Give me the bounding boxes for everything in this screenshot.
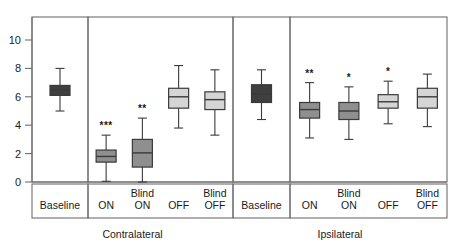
- box-plot-item: *OFF: [378, 66, 399, 211]
- chart-panel: ***ON**BlindONOFFBlindOFF: [88, 17, 233, 218]
- box-plot-item: OFF: [168, 66, 189, 211]
- box-plot-item: **ON: [300, 68, 320, 211]
- category-label: Blind: [416, 187, 440, 199]
- y-axis-tick-label: 8: [15, 62, 21, 74]
- category-label: OFF: [168, 199, 189, 211]
- chart-panel: Baseline: [233, 17, 290, 218]
- box-iqr: [417, 88, 437, 108]
- box-plot-item: Baseline: [40, 68, 80, 211]
- box-plot-item: *BlindON: [337, 72, 361, 211]
- chart-panel: Baseline: [32, 17, 88, 218]
- box-plot-item: Baseline: [241, 70, 281, 211]
- box-iqr: [50, 85, 70, 95]
- significance-marker: **: [305, 68, 314, 79]
- y-axis-tick-label: 4: [15, 119, 21, 131]
- significance-marker: ***: [100, 120, 113, 131]
- box-plot-item: **BlindON: [131, 103, 155, 211]
- category-label: ON: [302, 199, 318, 211]
- y-axis-tick-label: 10: [9, 34, 21, 46]
- y-axis-tick-label: 0: [15, 176, 21, 188]
- group-label: Ipsilateral: [318, 228, 363, 240]
- y-axis-tick-label: 6: [15, 91, 21, 103]
- box-plot-item: ***ON: [96, 120, 116, 211]
- category-label: ON: [341, 199, 357, 211]
- significance-marker: **: [138, 103, 147, 114]
- box-plot-item: BlindOFF: [416, 74, 440, 211]
- category-label: Blind: [203, 187, 227, 199]
- category-label: Baseline: [40, 199, 80, 211]
- box-plot-item: BlindOFF: [203, 70, 227, 211]
- category-label: ON: [98, 199, 114, 211]
- category-label: Blind: [131, 187, 155, 199]
- significance-marker: *: [386, 66, 390, 77]
- category-label: OFF: [378, 199, 399, 211]
- significance-marker: *: [347, 72, 351, 83]
- chart-canvas: 0246810Baseline***ON**BlindONOFFBlindOFF…: [0, 0, 456, 250]
- box-iqr: [169, 88, 189, 108]
- category-label: ON: [135, 199, 151, 211]
- category-label: Blind: [337, 187, 361, 199]
- box-iqr: [205, 92, 225, 110]
- y-axis: 0246810: [9, 17, 32, 188]
- category-label: Baseline: [241, 199, 281, 211]
- y-axis-tick-label: 2: [15, 148, 21, 160]
- category-label: OFF: [417, 199, 438, 211]
- box-plot-figure: 0246810Baseline***ON**BlindONOFFBlindOFF…: [0, 0, 456, 250]
- chart-panel: **ON*BlindON*OFFBlindOFF: [290, 17, 447, 218]
- category-label: OFF: [204, 199, 225, 211]
- box-iqr: [300, 102, 320, 118]
- group-label: Contralateral: [102, 228, 162, 240]
